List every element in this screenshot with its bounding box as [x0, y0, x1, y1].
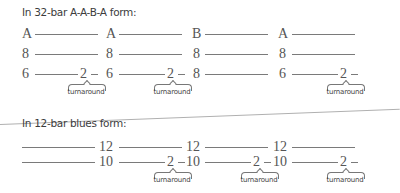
blues-row2-2: 2 — [253, 155, 260, 169]
blues-row2-10: 10 — [273, 155, 287, 169]
blues-row1-12: 12 — [273, 140, 287, 154]
blues-heading: In 12-bar blues form: — [22, 117, 126, 129]
blues-row2-10: 10 — [99, 155, 113, 169]
blues-row1-12: 12 — [186, 140, 200, 154]
aaba-row2-8: 8 — [279, 47, 286, 61]
aaba-row3-6: 6 — [279, 67, 286, 81]
blues-row2-2: 2 — [340, 155, 347, 169]
timeline-line — [119, 34, 182, 35]
turnaround-label: turnaround — [147, 88, 197, 96]
aaba-row3-2: 2 — [167, 67, 174, 81]
timeline-line — [205, 147, 268, 148]
timeline-dash — [178, 74, 185, 75]
aaba-row3-8: 8 — [193, 67, 200, 81]
timeline-dash — [91, 74, 98, 75]
timeline-line — [292, 74, 338, 75]
blues-row2-2: 2 — [167, 155, 174, 169]
aaba-row3-6: 6 — [22, 67, 29, 81]
aaba-heading: In 32-bar A-A-B-A form: — [22, 6, 136, 18]
aaba-row2-8: 8 — [106, 47, 113, 61]
timeline-dash — [351, 74, 358, 75]
timeline-dash — [351, 162, 358, 163]
timeline-line — [22, 147, 95, 148]
timeline-line — [292, 54, 355, 55]
timeline-line — [119, 54, 182, 55]
aaba-row3-2: 2 — [340, 67, 347, 81]
timeline-line — [292, 162, 338, 163]
aaba-row1-a2: A — [106, 27, 116, 41]
turnaround-label: turnaround — [320, 88, 370, 96]
turnaround-label: turnaround — [61, 88, 111, 96]
timeline-line — [22, 162, 95, 163]
aaba-row2-8: 8 — [193, 47, 200, 61]
timeline-line — [119, 162, 165, 163]
timeline-line — [205, 54, 268, 55]
blues-row2-10: 10 — [186, 155, 200, 169]
timeline-line — [119, 74, 165, 75]
timeline-dash — [264, 162, 271, 163]
aaba-row1-b: B — [192, 27, 201, 41]
timeline-dash — [178, 162, 185, 163]
timeline-line — [205, 162, 251, 163]
timeline-line — [292, 147, 355, 148]
timeline-line — [205, 74, 268, 75]
timeline-line — [119, 147, 182, 148]
aaba-row1-a3: A — [278, 27, 288, 41]
timeline-line — [205, 34, 268, 35]
aaba-row3-6: 6 — [106, 67, 113, 81]
aaba-row1-a1: A — [22, 27, 32, 41]
aaba-row3-2: 2 — [80, 67, 87, 81]
turnaround-label: turnaround — [147, 176, 197, 184]
timeline-line — [35, 34, 98, 35]
aaba-row2-8: 8 — [22, 47, 29, 61]
timeline-line — [35, 54, 98, 55]
timeline-line — [35, 74, 78, 75]
turnaround-label: turnaround — [320, 176, 370, 184]
timeline-line — [292, 34, 355, 35]
blues-row1-12: 12 — [99, 140, 113, 154]
turnaround-label: turnaround — [234, 176, 284, 184]
